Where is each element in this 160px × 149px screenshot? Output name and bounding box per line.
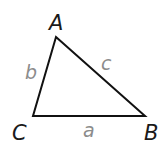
triangle-abc [33, 37, 145, 116]
vertex-label-a: A [47, 11, 63, 35]
vertex-label-c: C [12, 121, 27, 145]
vertex-label-b: B [144, 121, 158, 145]
triangle-diagram: A C B b c a [0, 0, 160, 149]
side-label-a: a [83, 119, 95, 141]
side-label-c: c [101, 52, 112, 74]
side-label-b: b [25, 61, 37, 83]
